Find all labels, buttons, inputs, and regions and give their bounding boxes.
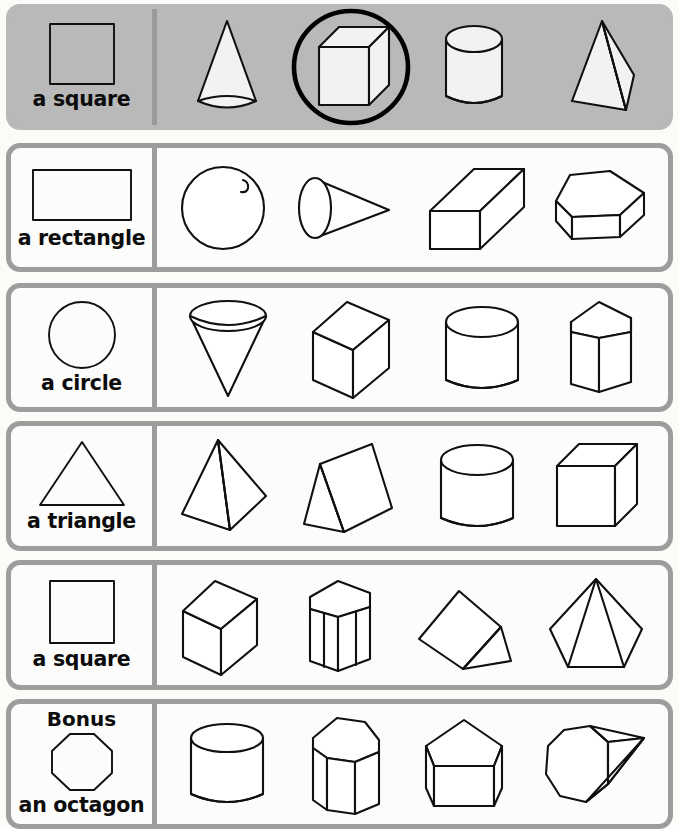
option-cylinder[interactable] <box>425 430 529 542</box>
worksheet-row-rectangle[interactable]: a rectangle <box>6 143 673 272</box>
option-cube[interactable] <box>303 13 399 121</box>
rectangle-icon <box>29 164 135 226</box>
circle-icon <box>44 299 120 371</box>
option-cylinder[interactable] <box>175 710 279 818</box>
row-label-cell: a rectangle <box>11 148 157 267</box>
row-options <box>157 704 668 824</box>
row-label-cell: a square <box>11 565 157 685</box>
row-label-cell: a circle <box>11 288 157 407</box>
row-options <box>157 9 668 125</box>
option-sphere[interactable] <box>173 153 273 263</box>
row-label-text: a square <box>33 89 131 111</box>
option-octagonal-prism[interactable] <box>299 708 395 820</box>
row-label-cell: a triangle <box>11 426 157 546</box>
option-pentagonal-pyramid[interactable] <box>540 569 652 681</box>
option-pentagonal-prism-tall[interactable] <box>557 292 649 404</box>
row-label-text: a rectangle <box>18 228 146 250</box>
worksheet-row-square[interactable]: a square <box>6 560 673 690</box>
option-cone-inverted[interactable] <box>176 292 280 404</box>
option-cone-sideways[interactable] <box>289 153 401 263</box>
option-pentagonal-prism-wide[interactable] <box>548 153 652 263</box>
triangle-icon <box>35 437 129 509</box>
option-square-pyramid[interactable] <box>174 430 278 542</box>
row-options <box>157 288 668 407</box>
worksheet-row-bonus[interactable]: Bonus an octagon <box>6 699 673 829</box>
option-cube-tilted[interactable] <box>173 569 277 681</box>
row-options <box>157 426 668 546</box>
row-label-text: a circle <box>41 373 122 395</box>
row-options <box>157 148 668 267</box>
worksheet-row-triangle[interactable]: a triangle <box>6 421 673 551</box>
option-cube-tilted[interactable] <box>303 292 407 404</box>
option-triangular-pyramid[interactable] <box>550 13 646 121</box>
option-octagonal-pyramid-sideways[interactable] <box>534 708 650 820</box>
worksheet-row-example[interactable]: a square <box>6 4 673 130</box>
bonus-label: Bonus <box>47 709 116 730</box>
row-label-text: an octagon <box>19 795 145 817</box>
option-hexagonal-prism[interactable] <box>294 569 390 681</box>
option-triangular-prism-leaning[interactable] <box>296 430 408 542</box>
square-icon <box>45 577 119 647</box>
option-cone[interactable] <box>179 13 275 121</box>
option-cylinder[interactable] <box>426 13 522 121</box>
square-icon <box>45 21 119 87</box>
option-rectangular-prism[interactable] <box>416 153 532 263</box>
option-pentagonal-prism-wide[interactable] <box>414 708 514 820</box>
row-label-text: a square <box>33 649 131 671</box>
worksheet-row-circle[interactable]: a circle <box>6 283 673 412</box>
row-label-cell: a square <box>11 9 157 125</box>
row-label-text: a triangle <box>27 511 136 533</box>
option-cylinder[interactable] <box>430 292 534 404</box>
row-label-cell: Bonus an octagon <box>11 704 157 824</box>
option-triangular-prism-tipped[interactable] <box>407 569 523 681</box>
row-options <box>157 565 668 685</box>
option-cube[interactable] <box>547 430 651 542</box>
octagon-icon <box>48 731 116 793</box>
